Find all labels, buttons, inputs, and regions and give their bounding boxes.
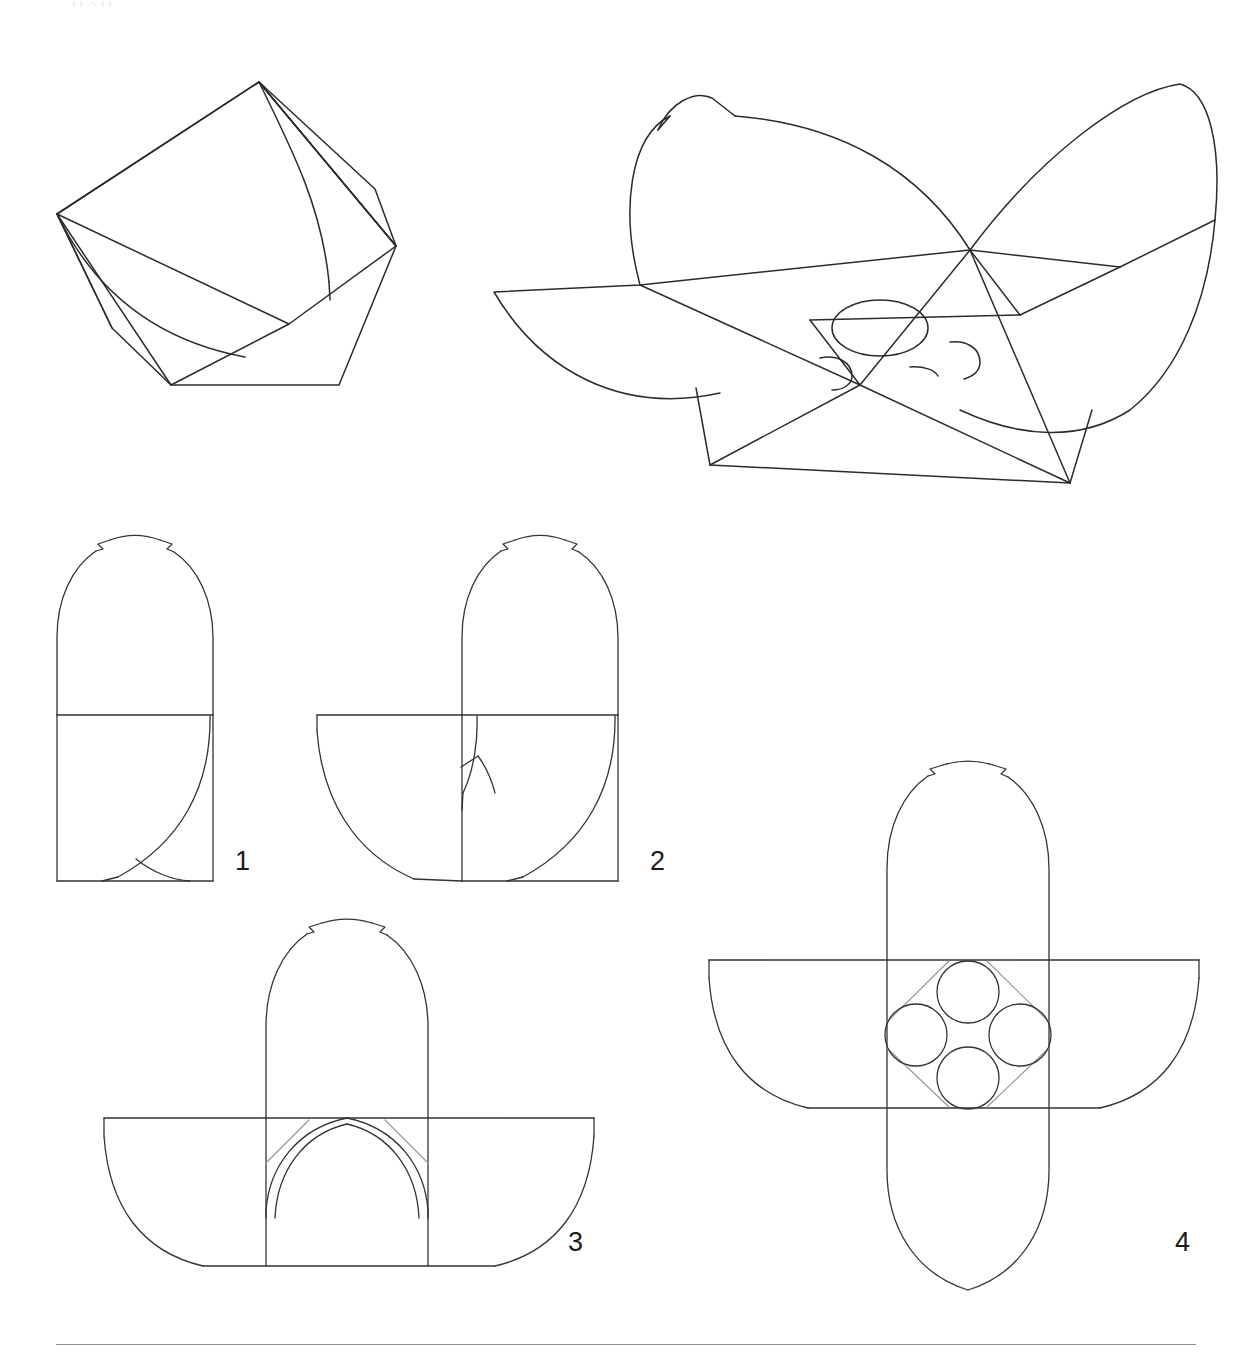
crossing-line-d (970, 250, 1020, 315)
figure-label-4: 4 (1175, 1229, 1190, 1256)
crossing-line-e (1020, 267, 1120, 315)
right-petal-lower-arc (960, 220, 1215, 433)
crossing-line-g (810, 315, 1020, 320)
crossing-line-f (640, 285, 860, 385)
aperture-circle-right (989, 1004, 1051, 1066)
guide-diagonal-left (266, 1120, 309, 1163)
scan-artifact-mark (72, 0, 114, 10)
guide-diagonal-top-left (887, 961, 949, 1022)
left-petal-outline (494, 116, 720, 399)
folded-body-outline (57, 82, 396, 385)
inner-fold-curve (463, 716, 477, 793)
dome-notch-right (565, 540, 579, 552)
left-petal-upper-arc (735, 116, 970, 250)
aperture-ellipse-2-partial (950, 342, 980, 379)
dome-crown-arc (322, 919, 372, 923)
dome-notch-right (160, 540, 174, 552)
guide-diagonal-bottom-left (887, 1048, 949, 1107)
curved-fold-line-lower (57, 214, 245, 357)
dome-left-arc (462, 551, 501, 715)
dome-crown-arc (110, 536, 160, 541)
figure-flat-blank-stage-3 (95, 918, 605, 1296)
figure-label-1: 1 (235, 848, 250, 875)
figure-perspective-open-view (480, 70, 1220, 500)
figure-flat-blank-stage-2 (300, 525, 645, 900)
dome-notch-right (372, 923, 387, 935)
dome-left-arc (57, 551, 96, 715)
dome-crown-arc (515, 536, 565, 541)
figure-flat-blank-stage-1 (40, 525, 260, 900)
lower-left-facet-b (57, 214, 171, 385)
dome-notch-left (307, 923, 322, 934)
figure-label-3: 3 (568, 1229, 583, 1256)
quarter-arc-fold (118, 716, 210, 877)
lower-skirt-diagonal-c (970, 250, 1070, 483)
bowl-right-arc (1100, 978, 1199, 1108)
capsule-notch-left (928, 765, 943, 776)
lower-small-arc (136, 859, 190, 881)
figure-perspective-folded-view (40, 60, 440, 410)
right-petal-side-edge (1120, 220, 1215, 267)
lower-skirt-right-edge (1070, 410, 1092, 483)
guide-diagonal-top-right (987, 961, 1049, 1022)
right-petal-upper-arc (970, 84, 1217, 250)
figure-flat-blank-stage-4 (700, 760, 1210, 1300)
lower-skirt-diagonal-b (860, 385, 1070, 483)
guide-diagonal-bottom-right (987, 1048, 1049, 1107)
dome-left-arc (266, 934, 307, 1118)
lower-skirt-left-edge (696, 388, 710, 465)
capsule-notch-right (993, 765, 1008, 777)
wing-sweep-arc (317, 731, 414, 879)
bowl-left-arc (709, 978, 808, 1108)
guide-diagonal-right (385, 1120, 428, 1163)
dome-right-arc (174, 552, 213, 715)
capsule-left-edge-upper (887, 776, 928, 960)
lower-skirt-diagonal-a (710, 385, 860, 465)
left-petal-notch-tab (658, 96, 735, 130)
wing-bottom-edge (414, 879, 462, 881)
inner-arch-left (275, 1124, 347, 1218)
lower-skirt-base (710, 465, 1070, 483)
inner-fold-diagonal (461, 756, 478, 767)
aperture-circle-top (937, 961, 999, 1023)
curved-fold-line-right (259, 82, 329, 282)
aperture-ellipse-4-partial (910, 367, 938, 376)
dome-notch-left (501, 540, 515, 551)
aperture-circle-left (885, 1004, 947, 1066)
footer-horizontal-rule (56, 1344, 1196, 1345)
inner-fold-diagonal-b (478, 756, 495, 793)
aperture-circle-bottom (937, 1047, 999, 1109)
crossing-line-a (640, 250, 970, 285)
right-facet-b (259, 82, 396, 246)
aperture-ellipse-1 (832, 300, 928, 356)
dome-right-arc (387, 935, 428, 1118)
crossing-line-b (970, 250, 1120, 267)
curved-fold-tail-right (329, 282, 330, 300)
capsule-right-edge-upper (1008, 777, 1049, 960)
figure-label-2: 2 (650, 848, 665, 875)
bowl-left-arc (104, 1136, 203, 1266)
capsule-crown-arc (943, 761, 993, 765)
dome-notch-left (96, 540, 110, 551)
inner-arch-right (347, 1124, 419, 1218)
drawing-sheet: 1 2 (0, 0, 1253, 1362)
quarter-arc-fold (523, 716, 615, 877)
dome-right-arc (579, 552, 618, 715)
